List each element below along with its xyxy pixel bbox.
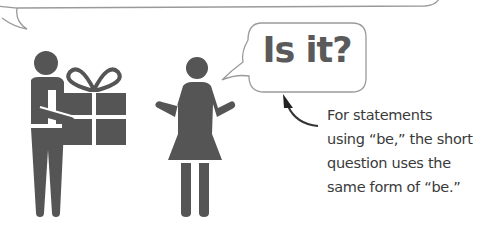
annotation-line: question uses the	[327, 151, 496, 175]
annotation-line: using “be,” the short	[327, 127, 496, 151]
annotation-line: For statements	[327, 103, 496, 127]
top-speech-bubble	[0, 0, 440, 29]
arrowhead-icon	[283, 94, 293, 108]
annotation-line: same form of “be.”	[327, 175, 496, 199]
gift-box-icon	[62, 69, 126, 145]
question-text: Is it?	[250, 28, 364, 72]
annotation-note: For statements using “be,” the short que…	[327, 103, 496, 199]
woman-figure-icon	[155, 57, 235, 217]
pointer-arrow	[288, 106, 318, 126]
